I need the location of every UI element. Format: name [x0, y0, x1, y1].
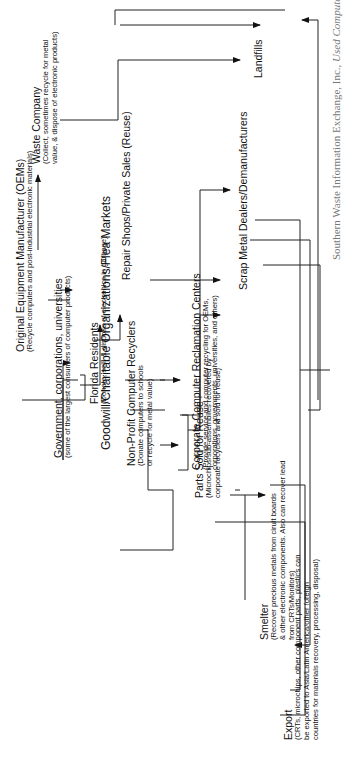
scrap-title: Scrap Metal Dealers/Demanufacturers: [237, 111, 249, 290]
landfills-title: Landfills: [252, 39, 264, 78]
goodwill-title: Goodwill/Charitable Organizations/Flea M…: [100, 196, 114, 450]
node-export: Export (CRTs, microchips, other componen…: [282, 554, 320, 740]
nonprofit-subtitle-2: or recycle for metal value): [146, 321, 155, 466]
government-subtitle: (some of the largest consumers of comput…: [64, 276, 73, 458]
node-government: Government, corporations, universities (…: [52, 276, 73, 458]
repair-title: Repair Shops/Private Sales (Reuse): [120, 111, 132, 280]
node-nonprofit-recyclers: Non-Profit Computer Recyclers (Donate co…: [125, 321, 155, 466]
node-oems: Original Equipment Manufacturer (OEMs) (…: [14, 151, 35, 352]
node-repair-shops: Repair Shops/Private Sales (Reuse): [120, 111, 132, 280]
node-waste-company: Waste Company (Collect, sometimes recycl…: [30, 31, 60, 164]
node-landfills: Landfills: [252, 39, 264, 78]
source-caption: Southern Waste Information Exchange, Inc…: [330, 0, 342, 260]
node-scrap-metal: Scrap Metal Dealers/Demanufacturers: [237, 111, 249, 290]
waste-subtitle-2: value, & dispose of electronic products): [51, 31, 60, 164]
parts-subtitle-2: corporate recyclers and sold for reuse): [214, 358, 223, 498]
caption-italic: Used Computer: [330, 0, 342, 62]
oems-subtitle: (Recycle computers and post-industrial e…: [26, 151, 35, 352]
caption-text: Southern Waste Information Exchange, Inc…: [330, 62, 342, 260]
recycling-flow-diagram: Original Equipment Manufacturer (OEMs) (…: [0, 0, 348, 760]
export-subtitle-3: countries for materials recovery, proces…: [312, 554, 321, 740]
node-goodwill: Goodwill/Charitable Organizations/Flea M…: [100, 196, 114, 450]
node-parts-sold: Parts Sold for Reuse (Microchips/sub-ass…: [193, 358, 223, 498]
